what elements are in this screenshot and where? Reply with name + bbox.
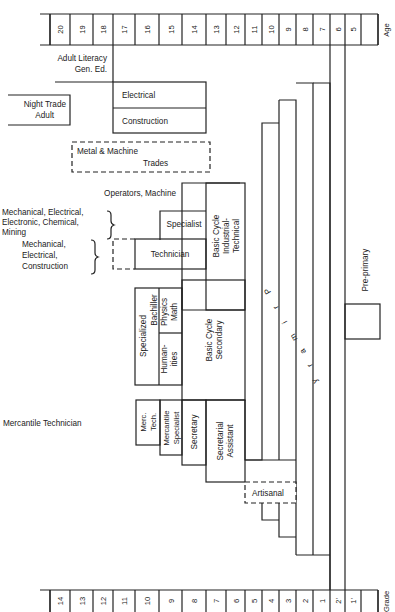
electrical-construction-block: Electrical Construction bbox=[113, 82, 206, 133]
math-label: Math bbox=[170, 302, 179, 321]
grade-axis-tick: 2 bbox=[301, 599, 310, 603]
basic-industrial-label-2: Industrial- bbox=[222, 218, 231, 254]
age-axis-tick: 6 bbox=[334, 27, 343, 31]
age-axis-tick: 11 bbox=[250, 26, 259, 34]
metal-machine-trades-block: Metal & Machine Trades bbox=[72, 142, 210, 172]
grade-axis-tick: 2' bbox=[334, 598, 343, 604]
night-trade-label: Night Trade bbox=[24, 100, 67, 109]
age-axis: 201918171615141312111098765 Age bbox=[40, 14, 391, 45]
technician-fields-label: Mechanical, Electrical, Construction bbox=[22, 240, 98, 274]
basic-secondary-label: Basic Cycle bbox=[205, 318, 214, 361]
physics-label: Physics bbox=[160, 298, 169, 326]
age-axis-tick: 18 bbox=[99, 25, 108, 33]
night-trade-adult-block: Night Trade Adult bbox=[8, 95, 70, 125]
basic-industrial-label-3: Technical bbox=[232, 219, 241, 253]
primary-block: Primary bbox=[245, 45, 345, 590]
age-axis-tick: 19 bbox=[78, 25, 87, 33]
operators-machine-label: Operators, Machine bbox=[104, 189, 176, 198]
specialist-fields-line-3: Mining bbox=[2, 228, 27, 237]
pre-primary-label: Pre-primary bbox=[361, 248, 370, 292]
artisanal-label: Artisanal bbox=[252, 489, 284, 498]
specialist-fields-line-2: Electronic, Chemical, bbox=[2, 218, 79, 227]
grade-axis-tick: 7 bbox=[212, 599, 221, 603]
technician-fields-line-1: Mechanical, bbox=[22, 240, 66, 249]
age-axis-tick: 15 bbox=[167, 25, 176, 33]
grade-axis-tick: 5 bbox=[250, 599, 259, 603]
secretary-label: Secretary bbox=[190, 414, 199, 450]
basic-industrial-label: Basic Cycle bbox=[212, 214, 221, 257]
grade-axis-tick: 10 bbox=[143, 597, 152, 605]
primary-label-letter: i bbox=[280, 319, 289, 325]
grade-axis-tick: 4 bbox=[267, 599, 276, 603]
age-axis-tick: 14 bbox=[190, 25, 199, 33]
grade-axis-tick: 13 bbox=[78, 597, 87, 605]
specialist-fields-line-1: Mechanical, Electrical, bbox=[2, 208, 83, 217]
metal-machine-label: Metal & Machine bbox=[77, 147, 138, 156]
age-axis-tick: 9 bbox=[284, 27, 293, 31]
age-axis-tick: 16 bbox=[143, 25, 152, 33]
construction-label: Construction bbox=[122, 117, 168, 126]
basic-cycle-secondary-block: Basic Cycle Secondary bbox=[182, 280, 245, 400]
grade-axis: 14131211109876543212'1' Grade bbox=[40, 590, 391, 612]
technician-label: Technician bbox=[151, 250, 190, 259]
basic-secondary-label-2: Secondary bbox=[215, 320, 224, 360]
age-axis-tick: 12 bbox=[232, 25, 241, 33]
adult-literacy-label-2: Gen. Ed. bbox=[75, 65, 107, 74]
grade-axis-tick: 8 bbox=[190, 599, 199, 603]
primary-label-letter: P bbox=[262, 286, 273, 296]
mercantile-specialist-label-2: Specialist bbox=[172, 411, 181, 444]
adult-literacy-label: Adult Literacy bbox=[57, 54, 108, 63]
specialized-bachiller-block: Specialized Bachiller Human- ities Physi… bbox=[135, 288, 182, 385]
grade-axis-tick: 1' bbox=[349, 598, 358, 604]
artisanal-block: Artisanal bbox=[245, 482, 296, 503]
grade-axis-tick: 3 bbox=[284, 599, 293, 603]
age-axis-tick: 7 bbox=[318, 27, 327, 31]
secretarial-assistant-label: Secretarial bbox=[216, 421, 225, 460]
mercantile-technician-label: Mercantile Technician bbox=[3, 419, 82, 428]
brace-icon bbox=[107, 211, 114, 239]
merc-tech-label-2: Tech. bbox=[149, 413, 158, 431]
grade-axis-tick: 14 bbox=[56, 597, 65, 605]
specialist-fields-label: Mechanical, Electrical, Electronic, Chem… bbox=[2, 208, 114, 239]
primary-label-letter: a bbox=[298, 347, 308, 356]
grade-axis-tick: 6 bbox=[232, 599, 241, 603]
grade-axis-tick: 11 bbox=[120, 597, 129, 605]
primary-label-letter: y bbox=[309, 376, 319, 385]
night-trade-label-2: Adult bbox=[35, 111, 54, 120]
grade-axis-label: Grade bbox=[382, 591, 391, 612]
age-axis-tick: 5 bbox=[349, 27, 358, 31]
secretarial-assistant-label-2: Assistant bbox=[226, 424, 235, 458]
grade-axis-tick: 1 bbox=[318, 599, 327, 603]
metal-machine-label-2: Trades bbox=[143, 159, 168, 168]
primary-label-letter: m bbox=[288, 332, 299, 343]
age-axis-label: Age bbox=[382, 23, 391, 37]
humanities-label: Human- bbox=[160, 344, 169, 373]
brace-icon-2 bbox=[91, 240, 98, 274]
age-axis-tick: 20 bbox=[56, 25, 65, 33]
age-axis-tick: 10 bbox=[267, 25, 276, 33]
humanities-label-2: ities bbox=[170, 352, 179, 367]
adult-literacy-block: Adult Literacy Gen. Ed. bbox=[55, 45, 113, 82]
technician-fields-line-2: Electrical, bbox=[22, 251, 58, 260]
bachiller-label: Bachiller bbox=[150, 294, 159, 326]
specialist-label: Specialist bbox=[166, 220, 202, 229]
pre-primary-block: Pre-primary bbox=[345, 248, 380, 339]
merc-tech-label: Merc. bbox=[139, 413, 148, 432]
age-axis-tick: 13 bbox=[212, 25, 221, 33]
grade-axis-tick: 9 bbox=[167, 599, 176, 603]
age-axis-tick: 8 bbox=[301, 27, 310, 31]
grade-axis-tick: 12 bbox=[99, 597, 108, 605]
industrial-technical-stack: Specialist Technician Basic Cycle Indust… bbox=[113, 183, 245, 310]
specialized-label: Specialized bbox=[139, 315, 148, 357]
electrical-label: Electrical bbox=[122, 91, 155, 100]
mercantile-block: Merc. Tech. Mercantile Specialist Secret… bbox=[136, 400, 245, 482]
technician-fields-line-3: Construction bbox=[22, 262, 68, 271]
education-system-diagram: 201918171615141312111098765 Age 14131211… bbox=[0, 0, 395, 612]
age-axis-tick: 17 bbox=[120, 25, 129, 33]
mercantile-specialist-label: Mercantile bbox=[162, 410, 171, 445]
